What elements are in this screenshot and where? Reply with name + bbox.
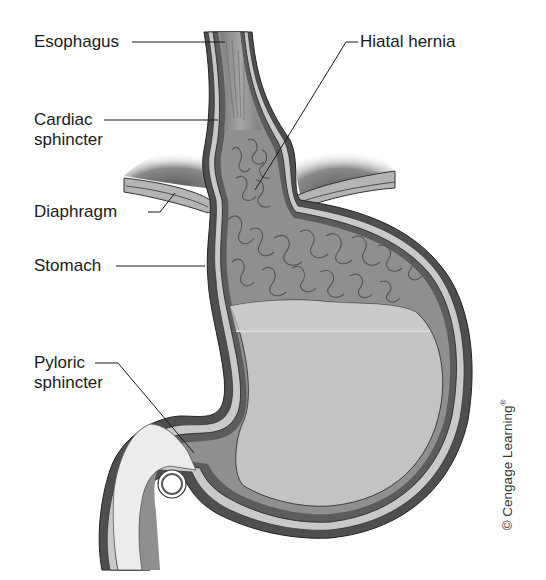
- label-pyloric-sphincter-line1: Pyloric: [34, 353, 85, 373]
- hiatal-hernia-diagram: [0, 0, 546, 580]
- registered-mark: ®: [499, 400, 508, 406]
- label-cardiac-sphincter-line1: Cardiac: [34, 110, 93, 130]
- label-diaphragm: Diaphragm: [34, 202, 117, 222]
- label-cardiac-sphincter-line2: sphincter: [34, 130, 103, 150]
- label-pyloric-sphincter-line2: sphincter: [34, 373, 103, 393]
- copyright-notice: © Cengage Learning®: [499, 400, 515, 531]
- label-stomach: Stomach: [34, 256, 101, 276]
- copyright-text: © Cengage Learning: [500, 406, 515, 531]
- label-esophagus: Esophagus: [34, 32, 119, 52]
- label-hiatal-hernia: Hiatal hernia: [360, 32, 455, 52]
